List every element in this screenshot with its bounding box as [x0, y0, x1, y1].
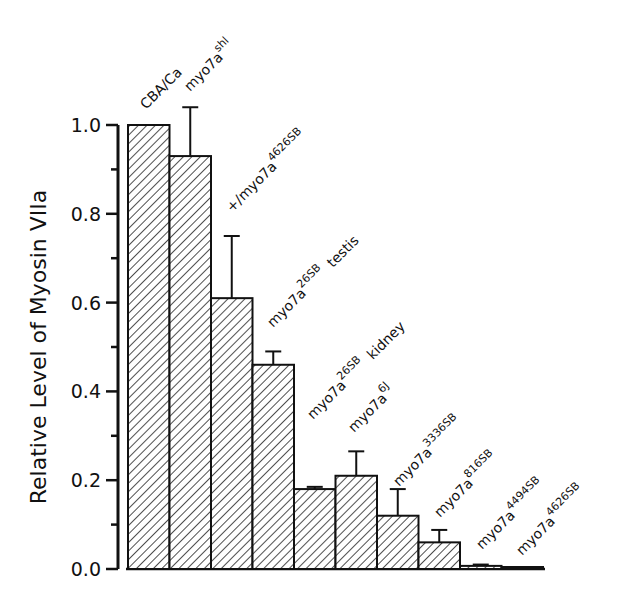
- y-tick-label: 0.2: [71, 469, 101, 491]
- bar-chart: 0.00.20.40.60.81.0 CBA/Camyo7ashl+/myo7a…: [0, 0, 618, 606]
- bar: [419, 542, 461, 569]
- category-label: myo7a3336SB: [386, 410, 465, 489]
- category-label: myo7a26SBtestis: [260, 229, 362, 331]
- bar: [460, 566, 502, 569]
- bar: [336, 476, 378, 569]
- category-label: +/myo7a4626SB: [219, 125, 309, 215]
- y-tick-label: 0.0: [71, 558, 101, 580]
- category-label: CBA/Ca: [137, 64, 185, 112]
- y-tick-label: 0.4: [71, 380, 101, 402]
- bars: [128, 125, 543, 569]
- y-tick-label: 0.6: [71, 292, 101, 314]
- bar: [253, 365, 295, 569]
- y-tick-label: 0.8: [71, 203, 101, 225]
- bar: [170, 156, 212, 569]
- category-label: myo7a26SBkidney: [300, 315, 408, 423]
- y-tick-label: 1.0: [71, 114, 101, 136]
- bar: [211, 298, 253, 569]
- y-axis-label: Relative Level of Myosin VIIa: [26, 190, 51, 504]
- bar: [294, 489, 336, 569]
- bar: [502, 567, 544, 569]
- category-label: myo7ashl: [177, 34, 237, 94]
- category-label: myo7a6J: [341, 379, 397, 435]
- bar: [377, 516, 419, 569]
- bar: [128, 125, 170, 569]
- category-label: myo7a816SB: [427, 446, 501, 520]
